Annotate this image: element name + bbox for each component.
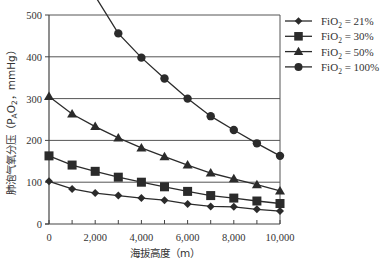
- circle-marker-icon: [253, 139, 261, 147]
- x-axis-title: 海拔高度（m）: [130, 247, 200, 259]
- x-tick-label: 8,000: [222, 232, 246, 243]
- square-marker-icon: [160, 182, 169, 191]
- series-circle: [95, 0, 284, 160]
- line-chart: 0100200300400500 02,0004,0006,0008,00010…: [0, 0, 380, 266]
- square-marker-icon: [294, 32, 303, 41]
- circle-marker-icon: [276, 152, 284, 160]
- square-marker-icon: [229, 194, 238, 203]
- diamond-marker-icon: [137, 194, 145, 202]
- y-tick-label: 0: [37, 219, 42, 230]
- y-axis-title: 肺泡气氧分压（PAO2，mmHg）: [5, 45, 19, 195]
- diamond-marker-icon: [161, 196, 169, 204]
- legend-label: FiO2 = 21%: [321, 15, 374, 30]
- diamond-marker-icon: [45, 177, 53, 185]
- diamond-marker-icon: [276, 207, 284, 215]
- diamond-marker-icon: [207, 202, 215, 210]
- x-axis-tick-labels: 02,0004,0006,0008,00010,000: [46, 232, 294, 243]
- y-tick-label: 300: [26, 94, 42, 105]
- triangle-marker-icon: [90, 122, 100, 131]
- circle-marker-icon: [160, 74, 168, 82]
- diamond-marker-icon: [230, 203, 238, 211]
- square-marker-icon: [114, 173, 123, 182]
- triangle-marker-icon: [294, 47, 304, 55]
- axes: [45, 15, 280, 224]
- triangle-marker-icon: [67, 109, 77, 118]
- square-marker-icon: [183, 187, 192, 196]
- circle-marker-icon: [230, 126, 238, 134]
- legend-item: FiO2 = 30%: [285, 30, 374, 45]
- diamond-marker-icon: [253, 205, 261, 213]
- legend-label: FiO2 = 50%: [321, 46, 374, 61]
- legend-item: FiO2 = 50%: [285, 46, 374, 61]
- x-tick-label: 10,000: [266, 232, 295, 243]
- circle-marker-icon: [207, 112, 215, 120]
- legend-label: FiO2 = 100%: [321, 61, 379, 76]
- square-marker-icon: [276, 199, 285, 208]
- legend-item: FiO2 = 21%: [285, 15, 374, 30]
- svg-text:肺泡气氧分压（PAO2，mmHg）: 肺泡气氧分压（PAO2，mmHg）: [5, 45, 19, 195]
- diamond-marker-icon: [114, 192, 122, 200]
- triangle-marker-icon: [113, 133, 123, 142]
- diamond-marker-icon: [68, 185, 76, 193]
- series-line: [95, 0, 280, 156]
- y-tick-label: 100: [26, 177, 42, 188]
- data-series: [44, 0, 285, 215]
- circle-marker-icon: [295, 63, 303, 71]
- square-marker-icon: [206, 191, 215, 200]
- square-marker-icon: [137, 178, 146, 187]
- square-marker-icon: [252, 197, 261, 206]
- y-tick-label: 400: [26, 52, 42, 63]
- diamond-marker-icon: [295, 17, 303, 25]
- series-triangle: [44, 92, 285, 195]
- square-marker-icon: [68, 161, 77, 170]
- y-axis-tick-labels: 0100200300400500: [26, 10, 42, 230]
- diamond-marker-icon: [184, 200, 192, 208]
- series-line: [49, 97, 280, 191]
- legend: FiO2 = 21%FiO2 = 30%FiO2 = 50%FiO2 = 100…: [285, 15, 379, 76]
- y-tick-label: 500: [26, 10, 42, 21]
- diamond-marker-icon: [91, 189, 99, 197]
- triangle-marker-icon: [44, 92, 54, 101]
- circle-marker-icon: [137, 53, 145, 61]
- circle-marker-icon: [114, 29, 122, 37]
- legend-item: FiO2 = 100%: [285, 61, 379, 76]
- x-tick-label: 4,000: [130, 232, 154, 243]
- x-tick-label: 6,000: [176, 232, 200, 243]
- triangle-marker-icon: [136, 143, 146, 152]
- x-tick-label: 0: [46, 232, 51, 243]
- square-marker-icon: [91, 167, 100, 176]
- y-tick-label: 200: [26, 135, 42, 146]
- square-marker-icon: [45, 151, 54, 160]
- legend-label: FiO2 = 30%: [321, 30, 374, 45]
- circle-marker-icon: [183, 94, 191, 102]
- x-tick-label: 2,000: [83, 232, 107, 243]
